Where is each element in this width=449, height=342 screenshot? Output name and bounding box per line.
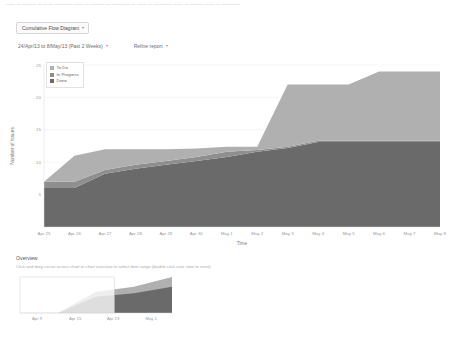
x-tick-label: Apr 30 xyxy=(190,231,203,236)
y-axis-title: Number of Issues xyxy=(10,127,15,165)
chart-areas xyxy=(44,71,440,227)
report-selector-row: Cumulative Flow Diagram ▾ xyxy=(0,22,449,34)
y-axis: 510152025 xyxy=(36,63,44,227)
x-tick-label: May 4 xyxy=(312,231,325,236)
x-tick-label: May 7 xyxy=(404,231,417,236)
x-tick-label: Apr 28 xyxy=(129,231,142,236)
x-tick-label: May 2 xyxy=(251,231,264,236)
chevron-down-icon: ▾ xyxy=(106,42,108,50)
overview-x-tick-label: Apr 23 xyxy=(107,316,120,321)
x-tick-label: May 3 xyxy=(282,231,295,236)
overview-chart[interactable]: Apr 9Apr 15Apr 23May 1 xyxy=(16,273,176,325)
legend-item[interactable]: Done xyxy=(50,78,79,85)
legend-swatch-icon xyxy=(50,73,54,77)
legend-item-label: Done xyxy=(57,78,68,85)
chart-legend: To DoIn ProgressDone xyxy=(46,62,84,88)
x-tick-label: Apr 27 xyxy=(98,231,111,236)
overview-canvas[interactable]: Apr 9Apr 15Apr 23May 1 xyxy=(16,273,176,325)
x-axis: Apr 25Apr 26Apr 27Apr 28Apr 29Apr 30May … xyxy=(38,227,447,236)
report-selector-dropdown[interactable]: Cumulative Flow Diagram ▾ xyxy=(16,22,89,34)
y-tick-label: 10 xyxy=(36,160,41,165)
x-tick-label: May 8 xyxy=(434,231,447,236)
overview-hint: Click and drag cursor across chart or ch… xyxy=(16,264,449,269)
report-selector-label: Cumulative Flow Diagram xyxy=(22,24,79,32)
filter-row: 24/Apr/13 to 8/May/13 (Past 2 Weeks) ▾ R… xyxy=(0,41,449,51)
y-tick-label: 5 xyxy=(39,192,42,197)
overview-x-axis: Apr 9Apr 15Apr 23May 1 xyxy=(20,313,172,321)
x-tick-label: Apr 25 xyxy=(38,231,51,236)
refine-report-dropdown[interactable]: Refine report ▾ xyxy=(132,41,170,51)
x-tick-label: May 1 xyxy=(221,231,234,236)
overview-x-tick-label: May 1 xyxy=(145,316,157,321)
refine-report-label: Refine report xyxy=(134,42,163,50)
x-tick-label: May 6 xyxy=(373,231,386,236)
overview-section: Overview Click and drag cursor across ch… xyxy=(0,255,449,325)
x-tick-label: Apr 29 xyxy=(159,231,172,236)
date-range-label: 24/Apr/13 to 8/May/13 (Past 2 Weeks) xyxy=(18,42,103,50)
cumulative-flow-report: Cumulative Flow Diagram ▾ 24/Apr/13 to 8… xyxy=(0,22,449,325)
x-tick-label: Apr 26 xyxy=(68,231,81,236)
legend-swatch-icon xyxy=(50,66,54,70)
date-range-dropdown[interactable]: 24/Apr/13 to 8/May/13 (Past 2 Weeks) ▾ xyxy=(16,41,110,51)
y-tick-label: 20 xyxy=(36,95,41,100)
overview-selection-window[interactable] xyxy=(20,277,114,313)
y-tick-label: 25 xyxy=(36,63,41,68)
legend-swatch-icon xyxy=(50,79,54,83)
chevron-down-icon: ▾ xyxy=(166,42,168,50)
scan-artifact-text: —— — ——— — —— ———— —— — ——— — ———— — —— … xyxy=(6,2,443,8)
cumulative-flow-chart[interactable]: 510152025 Apr 25Apr 26Apr 27Apr 28Apr 29… xyxy=(0,57,449,253)
chevron-down-icon: ▾ xyxy=(82,24,84,32)
y-tick-label: 15 xyxy=(36,127,41,132)
overview-title: Overview xyxy=(16,255,449,261)
overview-x-tick-label: Apr 15 xyxy=(69,316,82,321)
x-tick-label: May 5 xyxy=(343,231,356,236)
x-axis-title: Time xyxy=(237,241,248,246)
overview-x-tick-label: Apr 9 xyxy=(32,316,43,321)
